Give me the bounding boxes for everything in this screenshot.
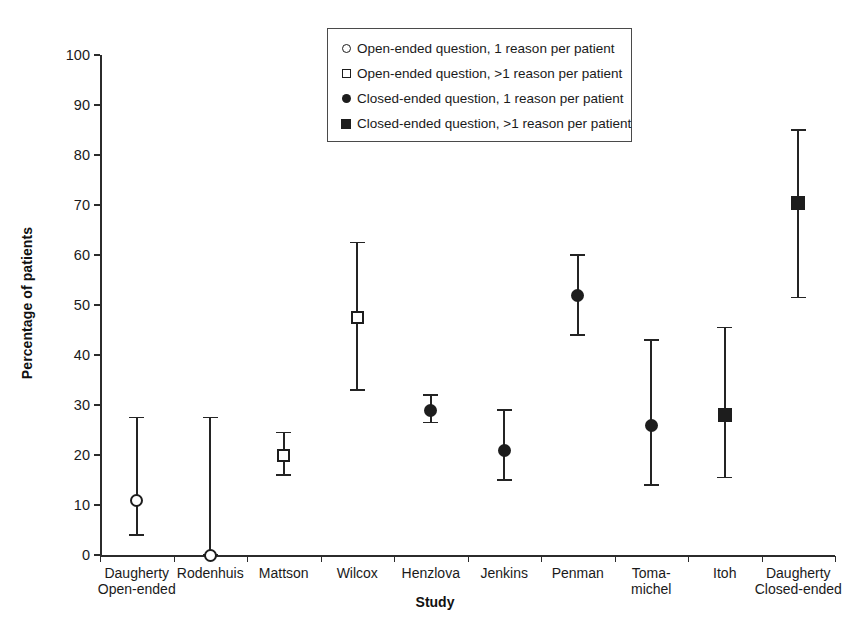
x-tick-mark (541, 556, 542, 562)
x-category-label: DaughertyClosed-ended (738, 566, 848, 597)
error-bar-line (724, 328, 726, 478)
legend-circle-filled-icon (338, 92, 354, 106)
y-tick-mark (94, 454, 100, 455)
y-tick-mark (94, 204, 100, 205)
error-bar-cap-lower (350, 389, 365, 391)
y-tick-label-wrap: 40 (0, 348, 90, 363)
legend-circle-open-icon (338, 42, 354, 56)
legend-box: Open-ended question, 1 reason per patien… (327, 28, 632, 142)
x-tick-mark (762, 556, 763, 562)
error-bar-cap-lower (423, 422, 438, 424)
legend-item-label: Closed-ended question, 1 reason per pati… (357, 92, 623, 106)
x-tick-mark (174, 556, 175, 562)
error-bar-cap-upper (276, 432, 291, 434)
y-tick-label-wrap: 0 (0, 548, 90, 563)
x-tick-mark (247, 556, 248, 562)
error-bar-cap-lower (497, 479, 512, 481)
legend-square-open-icon (338, 67, 354, 81)
y-tick-mark (94, 154, 100, 155)
error-bar-line (136, 418, 138, 536)
y-tick-mark (94, 304, 100, 305)
y-tick-label-wrap: 60 (0, 248, 90, 263)
error-bar-cap-lower (570, 334, 585, 336)
legend-item-label: Closed-ended question, >1 reason per pat… (357, 117, 631, 131)
x-tick-mark (394, 556, 395, 562)
y-tick-label: 80 (50, 148, 90, 163)
data-point-marker[interactable] (645, 419, 658, 432)
error-bar-cap-upper (350, 242, 365, 244)
data-point-marker[interactable] (277, 449, 290, 462)
y-tick-mark (94, 104, 100, 105)
y-tick-mark (94, 504, 100, 505)
y-tick-mark (94, 254, 100, 255)
x-axis-title: Study (380, 594, 490, 610)
error-bar-line (209, 418, 211, 556)
legend-item[interactable]: Open-ended question, >1 reason per patie… (338, 61, 631, 86)
y-tick-label-wrap: 80 (0, 148, 90, 163)
error-bar-cap-upper (717, 327, 732, 329)
x-tick-mark (688, 556, 689, 562)
data-point-marker[interactable] (498, 444, 511, 457)
error-bar-cap-lower (791, 297, 806, 299)
data-point-marker[interactable] (571, 289, 584, 302)
error-bar-cap-upper (644, 339, 659, 341)
y-tick-label-wrap: 50 (0, 298, 90, 313)
error-bar-cap-upper (570, 254, 585, 256)
error-bar-cap-upper (129, 417, 144, 419)
y-tick-label: 70 (50, 198, 90, 213)
y-tick-label: 20 (50, 448, 90, 463)
y-tick-label-wrap: 10 (0, 498, 90, 513)
data-point-marker[interactable] (718, 408, 732, 422)
legend-item-label: Open-ended question, 1 reason per patien… (357, 42, 614, 56)
error-bar-cap-upper (423, 394, 438, 396)
y-tick-label-wrap: 90 (0, 98, 90, 113)
error-bar-cap-upper (203, 417, 218, 419)
y-tick-mark (94, 404, 100, 405)
legend-item-label: Open-ended question, >1 reason per patie… (357, 67, 622, 81)
data-point-marker[interactable] (424, 404, 437, 417)
error-bar-cap-lower (276, 474, 291, 476)
y-axis-title: Percentage of patients (19, 218, 35, 388)
error-bar-cap-upper (791, 129, 806, 131)
error-bar-line (797, 130, 799, 298)
y-tick-label: 90 (50, 98, 90, 113)
forest-plot-figure: 0102030405060708090100 Percentage of pat… (0, 0, 848, 640)
legend-square-filled-icon (338, 117, 354, 131)
y-tick-label-wrap: 70 (0, 198, 90, 213)
legend-item[interactable]: Closed-ended question, 1 reason per pati… (338, 86, 631, 111)
y-tick-label-wrap: 100 (0, 48, 90, 63)
y-tick-label: 40 (50, 348, 90, 363)
y-tick-label: 30 (50, 398, 90, 413)
y-tick-label: 100 (50, 48, 90, 63)
data-point-marker[interactable] (130, 494, 143, 507)
data-point-marker[interactable] (351, 311, 364, 324)
x-tick-mark (468, 556, 469, 562)
error-bar-cap-lower (717, 477, 732, 479)
data-point-marker[interactable] (791, 196, 805, 210)
error-bar-cap-lower (129, 534, 144, 536)
error-bar-line (650, 340, 652, 485)
x-tick-mark (835, 556, 836, 562)
legend-item[interactable]: Closed-ended question, >1 reason per pat… (338, 111, 631, 136)
error-bar-cap-lower (644, 484, 659, 486)
error-bar-cap-upper (497, 409, 512, 411)
y-tick-label-wrap: 30 (0, 398, 90, 413)
y-tick-label: 0 (50, 548, 90, 563)
legend-item[interactable]: Open-ended question, 1 reason per patien… (338, 36, 631, 61)
x-tick-mark (615, 556, 616, 562)
y-tick-label: 60 (50, 248, 90, 263)
x-tick-mark (100, 556, 101, 562)
x-tick-mark (321, 556, 322, 562)
y-tick-label-wrap: 20 (0, 448, 90, 463)
y-axis-line (100, 55, 102, 555)
y-tick-mark (94, 54, 100, 55)
y-tick-label: 10 (50, 498, 90, 513)
y-tick-mark (94, 354, 100, 355)
y-tick-label: 50 (50, 298, 90, 313)
data-point-marker[interactable] (204, 549, 217, 562)
